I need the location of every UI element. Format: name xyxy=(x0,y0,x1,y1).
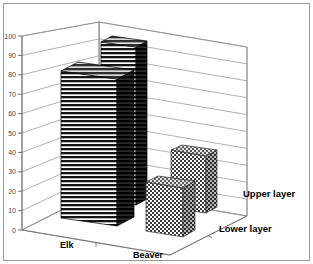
series-label-upper-layer: Upper layer xyxy=(243,188,296,199)
y-tick-90: 90 xyxy=(8,52,16,59)
y-tick-80: 80 xyxy=(8,71,16,78)
series-tick xyxy=(208,236,212,239)
y-tick-30: 30 xyxy=(8,168,16,175)
y-tick-70: 70 xyxy=(8,91,16,98)
y-tick-100: 100 xyxy=(4,33,16,40)
y-tick-20: 20 xyxy=(8,188,16,195)
y-tick-40: 40 xyxy=(8,149,16,156)
bar-elk-lower-layer[interactable] xyxy=(61,62,134,226)
chart-plot-area: 100 90 80 70 60 50 40 30 20 10 0 xyxy=(0,0,313,264)
chart-container: 100 90 80 70 60 50 40 30 20 10 0 xyxy=(0,0,313,264)
y-tick-10: 10 xyxy=(8,207,16,214)
y-axis-ticks xyxy=(18,36,22,230)
category-label-elk: Elk xyxy=(60,240,75,250)
series-label-lower-layer: Lower layer xyxy=(219,223,272,234)
y-axis-tick-labels: 100 90 80 70 60 50 40 30 20 10 0 xyxy=(4,33,16,234)
y-tick-0: 0 xyxy=(12,227,16,234)
y-tick-60: 60 xyxy=(8,110,16,117)
y-tick-50: 50 xyxy=(8,130,16,137)
category-label-beaver: Beaver xyxy=(133,250,164,260)
bar-beaver-lower-layer[interactable] xyxy=(146,176,195,237)
